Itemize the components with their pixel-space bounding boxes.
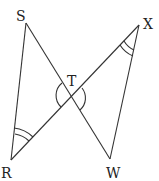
segment-xw	[110, 25, 139, 159]
label-x: X	[143, 16, 153, 32]
segment-sw	[26, 23, 110, 159]
label-r: R	[1, 165, 12, 181]
angle-mark-r-outer	[14, 128, 33, 137]
label-w: W	[106, 165, 121, 181]
angle-mark-r-inner	[15, 134, 29, 141]
segment-sr	[11, 23, 26, 160]
label-t: T	[67, 73, 77, 89]
angle-mark-x-inner	[124, 41, 134, 50]
label-s: S	[16, 8, 26, 24]
geometry-diagram: S X T R W	[0, 0, 159, 181]
angle-mark-x-outer	[120, 45, 133, 56]
angle-mark-t-right	[80, 88, 85, 110]
angle-mark-t-left	[56, 83, 62, 107]
